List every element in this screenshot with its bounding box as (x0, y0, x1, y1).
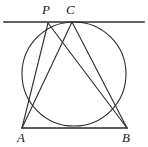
geometry-canvas (0, 0, 148, 147)
point-label-a: A (17, 131, 25, 144)
segment-cb (72, 22, 127, 128)
segment-ca (22, 22, 72, 128)
segment-pa (22, 23, 48, 128)
geometry-figure: P C A B (0, 0, 148, 147)
circle-outline (22, 22, 126, 126)
segment-pb (48, 23, 127, 128)
point-label-b: B (122, 131, 130, 144)
point-label-c: C (66, 3, 75, 16)
point-label-p: P (42, 3, 50, 16)
